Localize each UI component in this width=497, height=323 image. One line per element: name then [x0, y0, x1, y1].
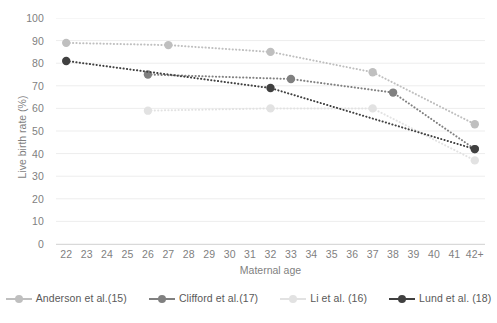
x-axis-tick-label: 30	[224, 248, 236, 260]
data-point-marker	[266, 48, 274, 56]
x-axis-tick-label: 40	[428, 248, 440, 260]
x-axis-tick-label: 32	[265, 248, 277, 260]
data-point-marker	[368, 104, 376, 112]
data-point-marker	[471, 145, 479, 153]
x-axis-tick-label: 23	[81, 248, 93, 260]
data-point-marker	[164, 41, 172, 49]
chart-legend: Anderson et al.(15)Clifford et al.(17)Li…	[0, 292, 497, 304]
data-point-marker	[471, 156, 479, 164]
chart-container: Live birth rate (%) 01020304050607080901…	[0, 0, 497, 323]
x-axis-tick-label: 35	[326, 248, 338, 260]
x-axis-title: Maternal age	[56, 264, 485, 276]
x-axis-tick-label: 29	[203, 248, 215, 260]
legend-item[interactable]: Li et al. (16)	[280, 292, 367, 304]
x-axis-tick-label: 31	[244, 248, 256, 260]
data-point-marker	[368, 68, 376, 76]
legend-marker-icon	[280, 293, 306, 304]
data-point-marker	[287, 75, 295, 83]
data-point-marker	[266, 84, 274, 92]
y-axis-tick-label: 40	[32, 148, 44, 160]
legend-item[interactable]: Clifford et al.(17)	[149, 292, 258, 304]
legend-label: Clifford et al.(17)	[179, 292, 258, 304]
legend-dot	[398, 295, 406, 303]
x-axis-tick-label: 42+	[466, 248, 484, 260]
legend-dot	[158, 295, 166, 303]
data-point-marker	[471, 120, 479, 128]
y-axis-tick-label: 50	[32, 125, 44, 137]
y-axis-tick-label: 80	[32, 57, 44, 69]
legend-marker-icon	[149, 293, 175, 304]
series-layer	[56, 18, 485, 244]
y-axis-tick-label: 90	[32, 35, 44, 47]
legend-item[interactable]: Anderson et al.(15)	[6, 292, 127, 304]
legend-label: Li et al. (16)	[310, 292, 367, 304]
data-point-marker	[144, 106, 152, 114]
x-axis-tick-label: 34	[305, 248, 317, 260]
x-axis-tick-label: 25	[122, 248, 134, 260]
y-axis-tick-label: 20	[32, 193, 44, 205]
x-axis-line	[56, 244, 485, 245]
x-axis-tick-label: 41	[448, 248, 460, 260]
data-point-marker	[266, 104, 274, 112]
x-axis-tick-labels: 2223242526272829303132333435363738394041…	[56, 248, 485, 264]
legend-item[interactable]: Lund et al. (18)	[389, 292, 491, 304]
x-axis-tick-label: 26	[142, 248, 154, 260]
x-axis-tick-label: 28	[183, 248, 195, 260]
data-point-marker	[62, 39, 70, 47]
y-axis-tick-label: 70	[32, 80, 44, 92]
data-point-marker	[389, 88, 397, 96]
y-axis-tick-label: 0	[38, 238, 44, 250]
x-axis-tick-label: 33	[285, 248, 297, 260]
x-axis-tick-label: 27	[162, 248, 174, 260]
x-axis-tick-label: 24	[101, 248, 113, 260]
legend-marker-icon	[6, 293, 32, 304]
legend-label: Lund et al. (18)	[419, 292, 491, 304]
plot-area	[56, 18, 485, 244]
legend-dot	[289, 295, 297, 303]
y-axis-tick-label: 60	[32, 102, 44, 114]
x-axis-tick-label: 22	[60, 248, 72, 260]
data-point-marker	[62, 57, 70, 65]
x-axis-tick-label: 36	[346, 248, 358, 260]
legend-marker-icon	[389, 293, 415, 304]
x-axis-tick-label: 38	[387, 248, 399, 260]
x-axis-tick-label: 37	[367, 248, 379, 260]
legend-dot	[15, 295, 23, 303]
legend-label: Anderson et al.(15)	[36, 292, 127, 304]
figure-top-rule	[0, 0, 497, 1]
series-line	[148, 75, 475, 150]
y-axis-tick-label: 30	[32, 170, 44, 182]
y-axis-tick-labels: 0102030405060708090100	[0, 18, 50, 244]
x-axis-tick-label: 39	[408, 248, 420, 260]
y-axis-tick-label: 100	[26, 12, 44, 24]
y-axis-tick-label: 10	[32, 215, 44, 227]
